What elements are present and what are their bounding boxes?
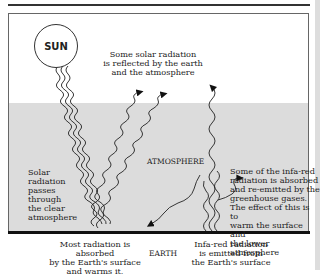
infrared-beam-1: [203, 181, 208, 231]
infrared-beam-2: [215, 171, 220, 231]
reflected-line: and the atmosphere: [98, 68, 208, 77]
greenhouse-line: The effect of this is to: [230, 203, 320, 221]
atmosphere-label: ATMOSPHERE: [147, 157, 204, 166]
passes-line: atmosphere: [28, 213, 77, 222]
reemitted-down: [150, 175, 200, 225]
infrared-escape: [209, 87, 215, 231]
earth-label: EARTH: [149, 249, 177, 258]
reflected-label: Some solar radiation is reflected by the…: [98, 50, 208, 77]
infrared-line: the Earth's surface: [186, 258, 276, 267]
reflected-beam-1: [91, 92, 140, 226]
passes-label: Solar radiation passes through the clear…: [28, 168, 77, 222]
absorbed-line: and warms it.: [40, 267, 150, 276]
absorbed-line: Most radiation is absorbed: [40, 240, 150, 258]
absorbed-label: Most radiation is absorbed by the Earth'…: [40, 240, 150, 276]
sun: SUN: [34, 24, 78, 68]
sun-label: SUN: [44, 41, 68, 52]
infrared-label: Infa-red radiation is emitted from the E…: [186, 240, 276, 267]
greenhouse-line: warm the surface and: [230, 221, 320, 239]
